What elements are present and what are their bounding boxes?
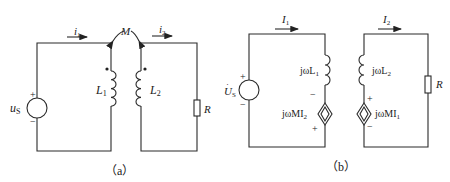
circuit-a: + − uS L1 i1 M L2 i2 R （a） [10, 23, 211, 178]
resistor-label-b: R [435, 78, 443, 90]
circuit-diagrams: + − uS L1 i1 M L2 i2 R （a） + − US · [0, 0, 450, 182]
circuit-b: + − US · jωL1 − + jωMI2 I1 jωL2 + − jωMI… [224, 13, 443, 174]
dep1-plus: + [312, 123, 318, 134]
source-plus-a: + [30, 89, 36, 100]
inductor-label-jwl2: jωL2 [371, 65, 391, 78]
mutual-label: M [120, 25, 131, 37]
resistor-a [194, 100, 200, 116]
source-plus-b: + [240, 71, 246, 82]
dep-source-label-1: jωMI2 [281, 108, 308, 121]
mutual-arrow-right [131, 31, 139, 41]
dep1-minus: − [310, 89, 316, 100]
dot-mark-l2 [143, 67, 146, 70]
inductor-jwl2 [359, 55, 364, 85]
caption-b: （b） [326, 160, 356, 174]
inductor-l1 [111, 71, 116, 106]
voltage-source-a [27, 98, 47, 118]
inductor-label-l2: L2 [149, 83, 161, 98]
dep2-plus: + [367, 93, 373, 104]
secondary-loop-wire-b [364, 34, 428, 147]
dep2-minus: − [367, 121, 373, 132]
dependent-source-2-inner [360, 107, 368, 121]
phasor-dot-us: · [226, 79, 229, 89]
source-minus-b: − [240, 99, 246, 110]
current-label-i2: i2 [159, 23, 166, 37]
resistor-label-a: R [203, 103, 211, 115]
resistor-b [425, 76, 431, 93]
dot-mark-l1 [105, 67, 108, 70]
caption-a: （a） [105, 164, 134, 178]
primary-loop-wire-a [37, 43, 111, 151]
source-minus-a: − [30, 116, 36, 127]
inductor-label-l1: L1 [95, 83, 107, 98]
current-label-I2: I2 [382, 13, 391, 27]
current-label-I1: I1 [281, 13, 290, 27]
inductor-l2 [136, 71, 141, 106]
dep-source-label-2: jωMI1 [374, 108, 401, 121]
secondary-loop-wire-a [141, 43, 197, 151]
source-label-a: uS [10, 101, 20, 116]
dependent-source-1-inner [321, 107, 329, 121]
inductor-jwl1 [325, 55, 330, 85]
inductor-label-jwl1: jωL1 [299, 65, 319, 78]
voltage-source-b [239, 80, 259, 100]
